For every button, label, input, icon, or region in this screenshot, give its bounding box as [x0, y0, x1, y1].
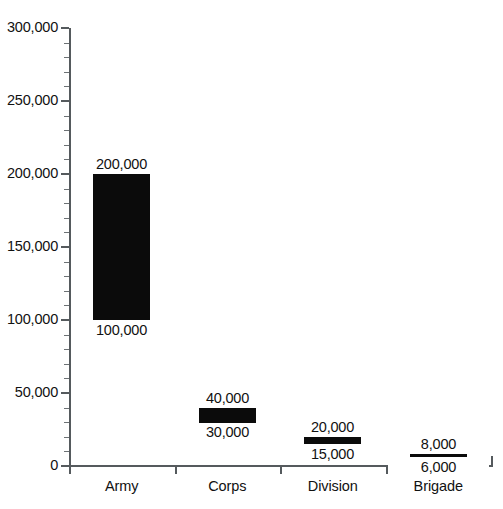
y-axis-minor-tick	[64, 422, 69, 423]
bar-value-label-high: 8,000	[388, 437, 489, 452]
y-axis-tick-label: 100,000	[0, 312, 58, 327]
x-axis-category-label: Brigade	[386, 479, 492, 494]
x-axis-category-label: Division	[280, 479, 386, 494]
y-axis-major-tick	[61, 319, 69, 321]
y-axis-minor-tick	[64, 378, 69, 379]
x-axis-tick	[69, 465, 71, 474]
y-axis-minor-tick	[64, 43, 69, 44]
y-axis-minor-tick	[64, 232, 69, 233]
y-axis-minor-tick	[64, 262, 69, 263]
y-axis-minor-tick	[64, 335, 69, 336]
y-axis-tick-label: 50,000	[0, 385, 58, 400]
y-axis-major-tick	[61, 173, 69, 175]
bar-chart: 300,000250,000200,000150,000100,00050,00…	[0, 0, 503, 509]
y-axis-minor-tick	[64, 72, 69, 73]
y-axis-tick-label: 250,000	[0, 93, 58, 108]
bar	[199, 408, 256, 423]
y-axis-minor-tick	[64, 189, 69, 190]
y-axis-minor-tick	[64, 116, 69, 117]
bar	[304, 437, 361, 444]
bar-value-label-high: 20,000	[282, 420, 383, 435]
x-axis-category-label: Army	[69, 479, 175, 494]
plot-area: 300,000250,000200,000150,000100,00050,00…	[0, 0, 503, 509]
y-axis-minor-tick	[64, 276, 69, 277]
bar	[410, 454, 467, 457]
y-axis-minor-tick	[64, 86, 69, 87]
x-axis-tick	[280, 465, 282, 474]
bar-value-label-high: 40,000	[177, 391, 278, 406]
y-axis-major-tick	[61, 465, 69, 467]
y-axis-tick-label: 150,000	[0, 239, 58, 254]
y-axis-tick-label: 0	[0, 458, 58, 473]
bar-value-label-low: 6,000	[388, 460, 489, 475]
y-axis-minor-tick	[64, 364, 69, 365]
y-axis-minor-tick	[64, 159, 69, 160]
x-axis-end-cap	[491, 456, 493, 467]
x-axis-category-label: Corps	[175, 479, 281, 494]
y-axis-minor-tick	[64, 130, 69, 131]
y-axis-major-tick	[61, 100, 69, 102]
y-axis-line	[69, 28, 71, 467]
x-axis-tick	[175, 465, 177, 474]
bar	[93, 174, 150, 320]
y-axis-major-tick	[61, 27, 69, 29]
y-axis-minor-tick	[64, 218, 69, 219]
y-axis-tick-label: 300,000	[0, 20, 58, 35]
y-axis-minor-tick	[64, 57, 69, 58]
bar-value-label-low: 15,000	[282, 447, 383, 462]
y-axis-tick-label: 200,000	[0, 166, 58, 181]
y-axis-minor-tick	[64, 203, 69, 204]
y-axis-minor-tick	[64, 451, 69, 452]
y-axis-major-tick	[61, 246, 69, 248]
y-axis-major-tick	[61, 392, 69, 394]
y-axis-minor-tick	[64, 437, 69, 438]
y-axis-minor-tick	[64, 408, 69, 409]
y-axis-minor-tick	[64, 349, 69, 350]
y-axis-minor-tick	[64, 145, 69, 146]
bar-value-label-low: 30,000	[177, 425, 278, 440]
bar-value-label-high: 200,000	[71, 157, 172, 172]
y-axis-minor-tick	[64, 305, 69, 306]
bar-value-label-low: 100,000	[71, 323, 172, 338]
y-axis-minor-tick	[64, 291, 69, 292]
